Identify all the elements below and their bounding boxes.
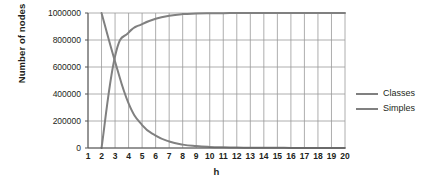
x-tick-label: 17 — [300, 151, 309, 162]
legend-item-classes[interactable]: Classes — [356, 86, 441, 101]
chart-container: Number of nodes 020000040000060000080000… — [0, 0, 441, 190]
plot-area — [88, 13, 345, 148]
plot-svg — [88, 13, 345, 148]
chart-legend: ClassesSimples — [356, 86, 441, 116]
x-tick-label: 11 — [219, 151, 228, 162]
x-tick-label: 9 — [194, 151, 199, 162]
x-tick-label: 1 — [86, 151, 91, 162]
x-tick-label: 8 — [180, 151, 185, 162]
x-axis-tick-labels: 1234567891011121314151617181920 — [88, 151, 345, 165]
y-axis-tick-labels: 02000004000006000008000001000000 — [36, 0, 84, 190]
y-tick-label: 0 — [76, 144, 81, 153]
x-tick-label: 5 — [140, 151, 145, 162]
x-tick-label: 10 — [205, 151, 214, 162]
axis-lines — [85, 13, 345, 148]
x-tick-label: 7 — [167, 151, 172, 162]
x-tick-label: 20 — [340, 151, 349, 162]
x-tick-label: 3 — [113, 151, 118, 162]
y-tick-label: 1000000 — [48, 9, 81, 18]
x-tick-label: 6 — [153, 151, 158, 162]
legend-item-simples[interactable]: Simples — [356, 101, 441, 116]
x-tick-label: 18 — [313, 151, 322, 162]
x-tick-label: 19 — [327, 151, 336, 162]
x-tick-label: 2 — [99, 151, 104, 162]
x-tick-label: 13 — [246, 151, 255, 162]
legend-swatch-icon — [356, 108, 378, 110]
legend-label: Classes — [383, 88, 415, 99]
x-axis-title: h — [88, 166, 345, 177]
x-tick-label: 12 — [232, 151, 241, 162]
y-tick-label: 400000 — [53, 90, 81, 99]
y-tick-label: 800000 — [53, 36, 81, 45]
y-tick-label: 600000 — [53, 63, 81, 72]
x-tick-label: 16 — [286, 151, 295, 162]
x-tick-label: 15 — [273, 151, 282, 162]
x-tick-label: 4 — [126, 151, 131, 162]
y-axis-title: Number of nodes — [16, 0, 27, 99]
x-tick-label: 14 — [259, 151, 268, 162]
y-tick-label: 200000 — [53, 117, 81, 126]
legend-swatch-icon — [356, 93, 378, 95]
legend-label: Simples — [383, 103, 415, 114]
